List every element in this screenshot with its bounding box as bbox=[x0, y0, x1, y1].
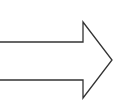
arrow-diagram bbox=[0, 0, 113, 111]
right-arrow-icon bbox=[0, 22, 112, 98]
